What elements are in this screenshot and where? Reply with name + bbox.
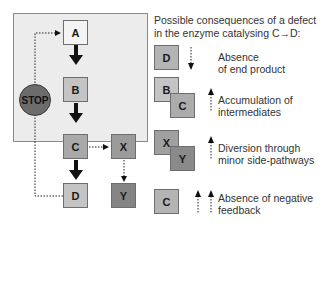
consequence-2-line1: Accumulation of (218, 94, 293, 106)
node-d: D (63, 183, 88, 208)
node-y: Y (111, 183, 136, 208)
legend-box-c2: C (154, 189, 179, 214)
node-a: A (63, 20, 88, 45)
consequence-1-line2: of end product (218, 63, 285, 75)
stop-sign: STOP (19, 84, 51, 116)
header-line2: in the enzyme catalysing C→D: (154, 27, 300, 39)
node-c: C (63, 134, 88, 159)
header-line1: Possible consequences of a defect (154, 14, 316, 26)
consequence-2-line2: intermediates (218, 106, 281, 118)
consequence-3-line1: Diversion through (218, 142, 300, 154)
node-x: X (111, 134, 136, 159)
consequence-4-line1: Absence of negative (218, 192, 313, 204)
legend-box-c: C (170, 93, 195, 118)
consequence-4-line2: feedback (218, 204, 261, 216)
consequence-1-line1: Absence (218, 51, 259, 63)
legend-box-y: Y (170, 146, 195, 171)
consequence-3-line2: minor side-pathways (218, 154, 314, 166)
node-b: B (63, 77, 88, 102)
legend-box-d: D (154, 45, 179, 70)
